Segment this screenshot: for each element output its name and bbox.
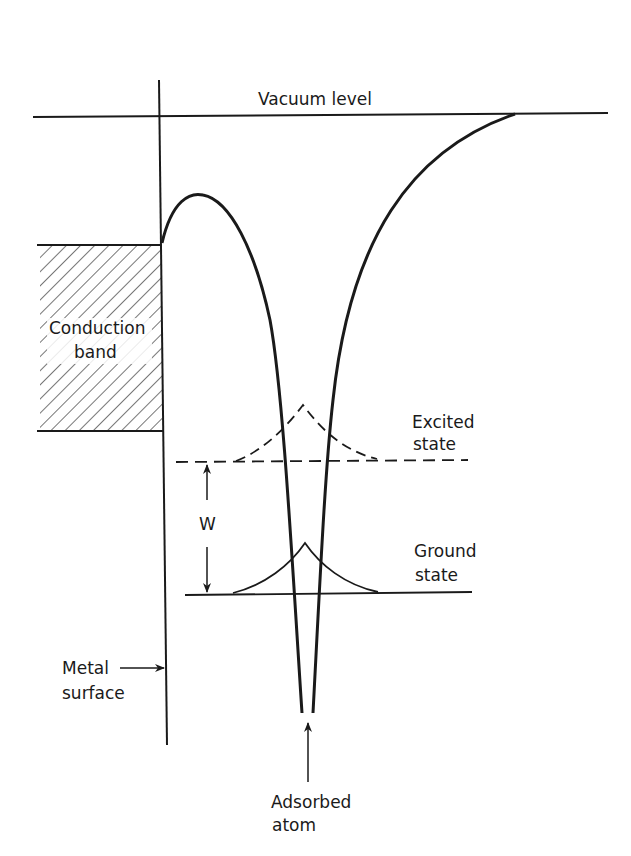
vacuum-level-label: Vacuum level xyxy=(258,89,372,109)
ground-state-line xyxy=(185,592,472,595)
ground-state-label-1: Ground xyxy=(414,541,477,561)
conduction-band-label-1: Conduction xyxy=(49,318,146,338)
ground-state-wavefunction xyxy=(233,543,378,593)
potential-curve-left xyxy=(162,194,302,713)
conduction-band-label-2: band xyxy=(74,342,117,362)
ground-state-label-2: state xyxy=(415,565,458,585)
excited-state-line xyxy=(176,460,468,462)
adsorbed-atom-label-1: Adsorbed xyxy=(271,792,351,812)
excited-state-label-2: state xyxy=(413,434,456,454)
energy-diagram: Vacuum level Conduction band Excited sta… xyxy=(0,0,631,856)
excited-state-label-1: Excited xyxy=(412,412,475,432)
excited-state-wavefunction xyxy=(236,405,377,461)
metal-surface-label-1: Metal xyxy=(62,658,109,678)
energy-gap-label: W xyxy=(199,514,216,534)
adsorbed-atom-label-2: atom xyxy=(272,815,316,835)
metal-surface-label-2: surface xyxy=(62,683,125,703)
vacuum-level-line xyxy=(33,113,608,117)
